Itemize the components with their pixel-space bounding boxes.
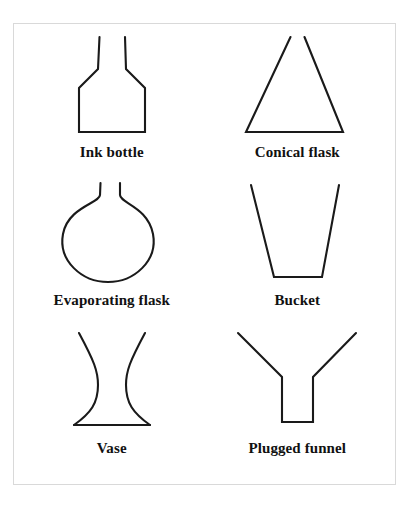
vessel-label-plugged-funnel: Plugged funnel <box>248 440 346 457</box>
vessel-cell-conical-flask: Conical flask <box>205 31 391 179</box>
evaporating-flask-shape <box>32 179 192 291</box>
vessel-label-ink-bottle: Ink bottle <box>80 144 144 161</box>
vessel-figure-grid: Ink bottle Conical flask Evaporating fla… <box>13 23 396 485</box>
vessel-label-evaporating-flask: Evaporating flask <box>54 292 170 309</box>
vessel-label-conical-flask: Conical flask <box>255 144 340 161</box>
vessel-cell-vase: Vase <box>19 327 205 475</box>
vessel-cell-plugged-funnel: Plugged funnel <box>205 327 391 475</box>
ink-bottle-shape <box>32 31 192 143</box>
figure-root: Ink bottle Conical flask Evaporating fla… <box>0 0 417 505</box>
vessel-cell-ink-bottle: Ink bottle <box>19 31 205 179</box>
bucket-shape <box>217 179 377 291</box>
vase-shape <box>32 327 192 439</box>
vessel-cell-evaporating-flask: Evaporating flask <box>19 179 205 327</box>
vessel-cell-bucket: Bucket <box>205 179 391 327</box>
plugged-funnel-shape <box>217 327 377 439</box>
vessel-label-bucket: Bucket <box>274 292 320 309</box>
vessel-label-vase: Vase <box>97 440 127 457</box>
conical-flask-shape <box>217 31 377 143</box>
